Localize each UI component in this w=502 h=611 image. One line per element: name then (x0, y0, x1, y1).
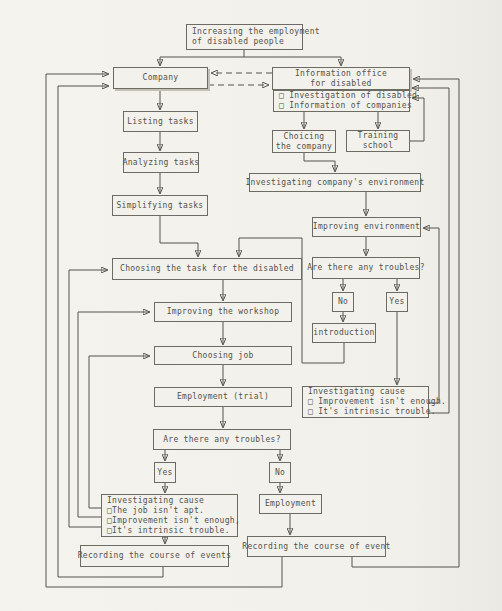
node-cause-right-line1: Investigating cause (308, 387, 405, 397)
node-troubles-left: Are there any troubles? (153, 429, 291, 450)
edge-cause-right-info-office (413, 88, 449, 413)
node-choosing-task: Choosing the task for the disabled (112, 258, 302, 280)
node-choicing-line1: Choicing (284, 132, 325, 142)
node-listing-tasks: Listing tasks (123, 111, 198, 132)
node-cause-left-line2: □The job isn't apt. (107, 506, 204, 516)
node-troubles-right: Are there any troubles? (312, 257, 420, 279)
node-training-line1: Training (358, 131, 399, 141)
node-training-line2: school (363, 141, 394, 151)
node-choicing-company: Choicing the company (272, 130, 336, 153)
node-recording-events: Recording the course of events (80, 545, 229, 567)
node-improve-env: Improving environment (312, 217, 421, 237)
node-yes-right: Yes (386, 292, 408, 312)
node-services-line1: □ Investigation of disabled (279, 91, 417, 101)
node-goal: Increasing the employment of disabled pe… (186, 24, 303, 50)
node-simplifying-tasks: Simplifying tasks (112, 195, 208, 216)
node-improve-workshop: Improving the workshop (154, 302, 292, 322)
edge-cause-right-improve-env (424, 228, 439, 403)
node-cause-left-line4: □It's intrinsic trouble. (107, 526, 230, 536)
node-no-left: No (269, 462, 291, 483)
node-recording-event: Recording the course of event (247, 536, 386, 557)
node-company: Company (113, 67, 208, 89)
node-employment-trial: Employment (trial) (154, 387, 292, 407)
node-goal-line1: Increasing the employment (192, 27, 320, 37)
node-info-office-line1: Information office (295, 69, 387, 79)
node-choosing-job: Choosing job (154, 346, 292, 365)
edge-goal-split (160, 50, 341, 57)
node-cause-right: Investigating cause □ Improvement isn't … (302, 386, 429, 418)
node-services-line2: □ Information of companies (279, 101, 412, 111)
node-analyzing-tasks: Analyzing tasks (123, 152, 199, 173)
node-cause-left: Investigating cause □The job isn't apt. … (101, 494, 238, 537)
node-services: □ Investigation of disabled □ Informatio… (273, 90, 410, 112)
node-cause-left-line1: Investigating cause (107, 496, 204, 506)
node-info-office: Information office for disabled (272, 67, 410, 90)
node-cause-left-line3: □Improvement isn't enough, (107, 516, 240, 526)
edge-simplifying-choosing-task (160, 216, 198, 256)
node-employment: Employment (259, 494, 322, 514)
node-yes-left: Yes (154, 462, 176, 483)
node-choicing-line2: the company (276, 142, 332, 152)
node-introduction: introduction (312, 323, 376, 343)
edge-cause-left-choosing-job (89, 356, 149, 508)
edge-training-services (410, 98, 424, 141)
edge-choicing-invest-env (304, 153, 335, 171)
node-info-office-line2: for disabled (310, 79, 371, 89)
node-cause-right-line2: □ Improvement isn't enough. (308, 397, 446, 407)
node-training-school: Training school (346, 130, 410, 152)
flowchart-page: Increasing the employment of disabled pe… (0, 0, 502, 611)
node-goal-line2: of disabled people (192, 37, 284, 47)
edge-cause-left-choosing-task (69, 270, 107, 527)
node-invest-env: Investigating company's environment (249, 173, 421, 192)
node-cause-right-line3: □ It's intrinsic trouble. (308, 407, 436, 417)
node-no-right: No (332, 292, 354, 312)
